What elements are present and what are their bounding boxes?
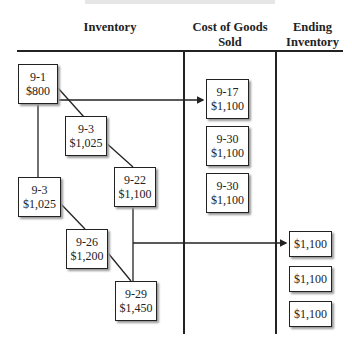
box-date: 9-3 bbox=[32, 183, 48, 197]
box-amount: $1,100 bbox=[294, 272, 327, 286]
box-amount: $1,025 bbox=[23, 197, 56, 211]
connector-lines bbox=[0, 0, 352, 346]
box-date: 9-22 bbox=[124, 173, 146, 187]
box-amount: $1,100 bbox=[211, 99, 244, 113]
inventory-box-9-3-second: 9-3 $1,025 bbox=[18, 177, 61, 217]
box-amount: $1,450 bbox=[120, 301, 153, 315]
box-amount: $800 bbox=[26, 84, 50, 98]
box-date: 9-29 bbox=[125, 287, 147, 301]
box-amount: $1,100 bbox=[294, 307, 327, 321]
inventory-box-9-26: 9-26 $1,200 bbox=[66, 229, 108, 269]
box-date: 9-3 bbox=[78, 122, 94, 136]
inventory-box-9-29: 9-29 $1,450 bbox=[115, 281, 157, 321]
box-amount: $1,200 bbox=[71, 249, 104, 263]
cogs-box-9-17: 9-17 $1,100 bbox=[206, 79, 249, 119]
box-amount: $1,100 bbox=[211, 193, 244, 207]
box-amount: $1,025 bbox=[70, 136, 103, 150]
box-date: 9-30 bbox=[217, 179, 239, 193]
inventory-box-9-22: 9-22 $1,100 bbox=[114, 167, 156, 207]
inventory-box-9-3: 9-3 $1,025 bbox=[65, 116, 107, 156]
box-amount: $1,100 bbox=[211, 146, 244, 160]
cogs-box-9-30-second: 9-30 $1,100 bbox=[206, 173, 249, 213]
ending-box-3: $1,100 bbox=[289, 301, 332, 327]
box-date: 9-1 bbox=[30, 70, 46, 84]
inventory-box-9-1: 9-1 $800 bbox=[18, 64, 58, 104]
box-date: 9-30 bbox=[217, 132, 239, 146]
box-amount: $1,100 bbox=[119, 187, 152, 201]
box-amount: $1,100 bbox=[294, 237, 327, 251]
ending-box-1: $1,100 bbox=[289, 231, 332, 257]
ending-box-2: $1,100 bbox=[289, 266, 332, 292]
cogs-box-9-30: 9-30 $1,100 bbox=[206, 126, 249, 166]
box-date: 9-26 bbox=[76, 235, 98, 249]
box-date: 9-17 bbox=[217, 85, 239, 99]
